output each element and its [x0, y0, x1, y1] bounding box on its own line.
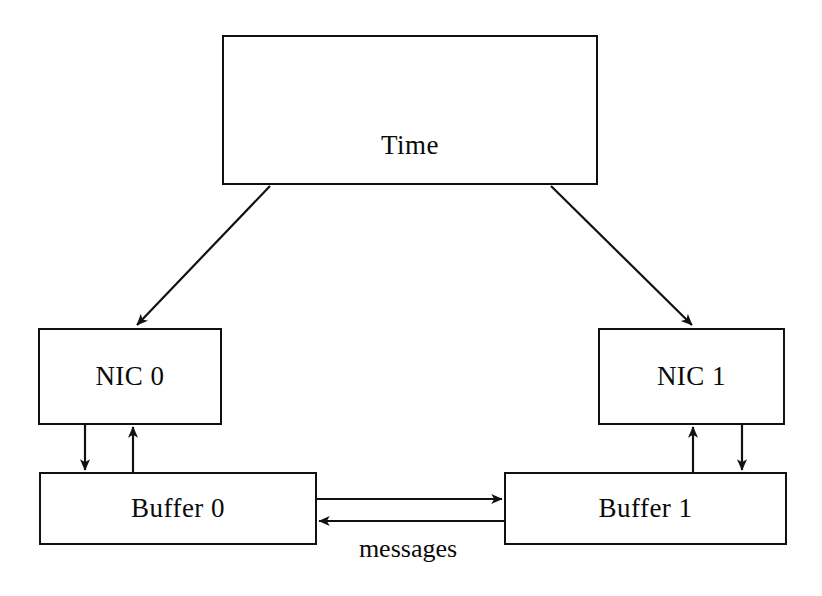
node-nic0-label: NIC 0 [95, 363, 164, 390]
edge-label-messages: messages [338, 536, 478, 562]
node-buffer0[interactable]: Buffer 0 [39, 472, 317, 545]
node-time[interactable]: Time [222, 35, 598, 185]
node-nic0[interactable]: NIC 0 [38, 328, 222, 425]
node-nic1[interactable]: NIC 1 [598, 328, 785, 425]
connector-time-to-nic0 [137, 186, 270, 325]
node-buffer1-label: Buffer 1 [598, 495, 692, 522]
node-time-label: Time [381, 132, 439, 159]
node-buffer1[interactable]: Buffer 1 [504, 472, 787, 545]
node-nic1-label: NIC 1 [657, 363, 726, 390]
connector-time-to-nic1 [551, 186, 692, 325]
node-buffer0-label: Buffer 0 [131, 495, 225, 522]
diagram-canvas: Time NIC 0 NIC 1 Buffer 0 Buffer 1 messa… [0, 0, 822, 596]
